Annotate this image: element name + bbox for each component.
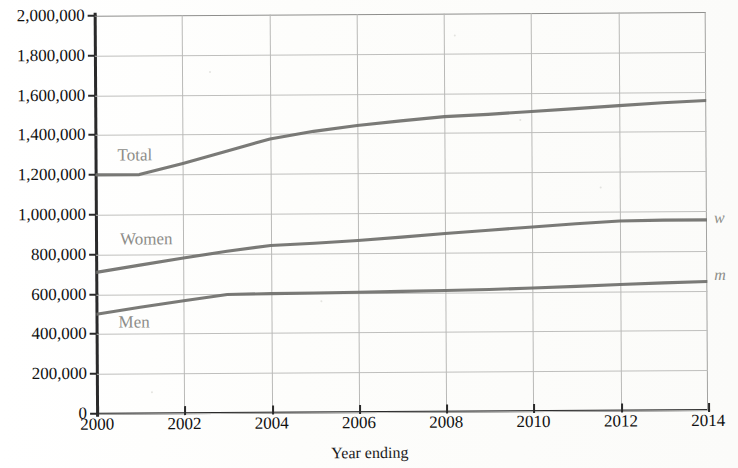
scan-speck [209,71,211,73]
scan-speck [320,300,322,302]
x-axis-tick-label: 2006 [324,414,394,432]
x-axis-tick-label: 2008 [411,413,481,431]
scan-speck [454,34,456,36]
series-label-total: Total [117,145,152,165]
scan-speck [600,187,602,189]
y-axis-tick-label: 200,000 [1,365,87,383]
x-axis-tick-label: 2004 [237,414,307,432]
chart-skew-wrapper: 2,000,0001,800,0001,600,0001,400,0001,20… [0,0,738,468]
x-axis-tick-label: 2012 [586,412,656,430]
cut-off-title [149,0,579,6]
x-axis-tick-label: 2014 [673,412,738,430]
series-label-women: Women [120,229,173,249]
edge-marker-m: m [714,266,726,284]
y-axis-tick-label: 1,800,000 [0,47,85,65]
y-axis-tick-label: 800,000 [0,246,86,264]
y-axis-tick-label: 1,000,000 [0,206,86,224]
edge-marker-w: w [714,209,725,227]
series-line-women [96,220,707,272]
y-axis-tick-label: 400,000 [1,325,87,343]
series-label-men: Men [118,312,149,332]
y-axis-tick-label: 600,000 [0,285,86,303]
x-axis-tick-label: 2002 [149,415,219,433]
y-axis-tick-label: 1,600,000 [0,86,85,104]
y-axis-tick-label: 1,400,000 [0,126,85,144]
x-axis-title: Year ending [331,444,408,462]
x-axis-tick-label: 2000 [62,415,132,433]
series-line-men [96,282,707,315]
x-axis-tick-label: 2010 [499,413,569,431]
scan-speck [151,391,153,393]
chart-page: 2,000,0001,800,0001,600,0001,400,0001,20… [0,0,738,468]
scan-speck [519,119,521,121]
series-line-total [95,100,706,174]
y-axis-tick-label: 1,200,000 [0,166,86,184]
series-lines [95,12,708,414]
y-axis-tick-label: 2,000,000 [0,7,85,25]
